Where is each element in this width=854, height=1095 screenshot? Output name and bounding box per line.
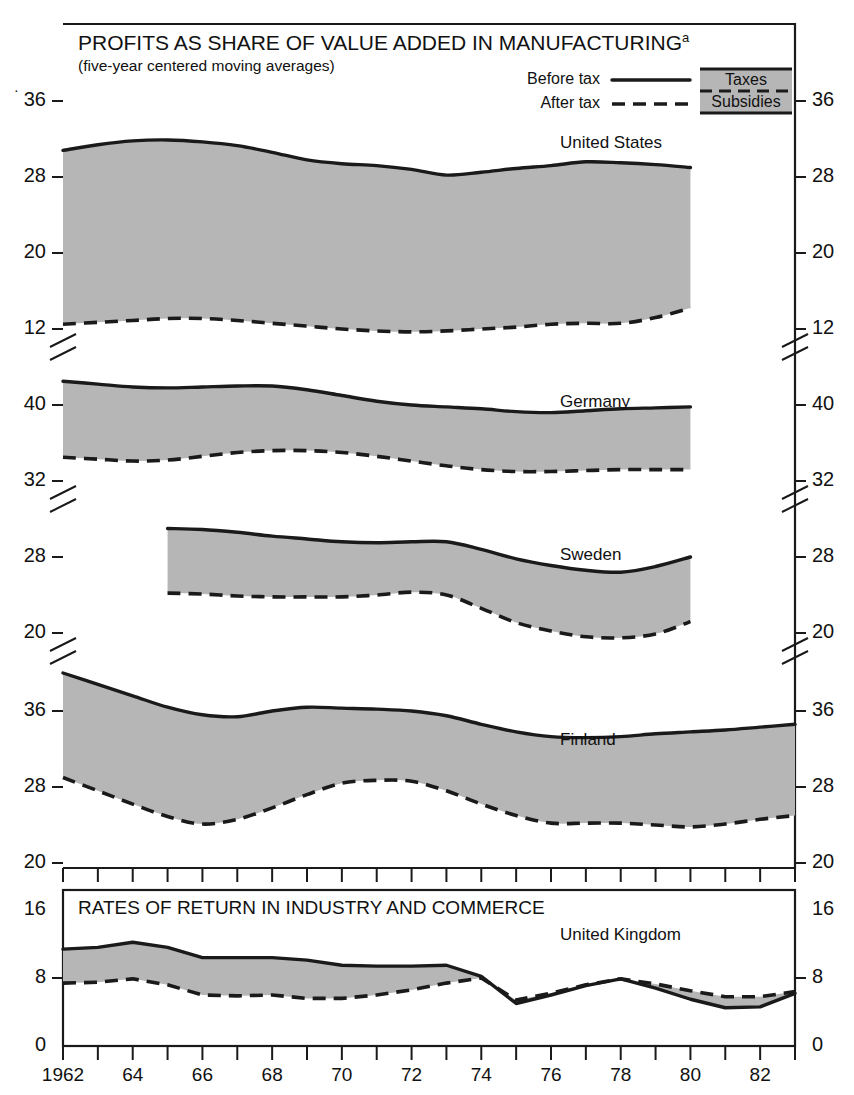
legend-before-tax-label: Before tax — [527, 70, 600, 88]
axis-break-mark — [50, 499, 76, 512]
y-axis-label-left: 32 — [24, 468, 46, 491]
panel-label-united-states: United States — [560, 133, 662, 153]
uk-panel-title: RATES OF RETURN IN INDUSTRY AND COMMERCE — [78, 897, 545, 919]
y-axis-label-right: 20 — [812, 240, 834, 263]
y-axis-label-left: 20 — [24, 850, 46, 873]
y-axis-label-right: 28 — [812, 774, 834, 797]
y-axis-label-left: 36 — [24, 88, 46, 111]
y-axis-label-left: 8 — [35, 965, 46, 988]
margin-mark: · — [14, 82, 19, 98]
x-axis-label: 82 — [750, 1064, 771, 1086]
panel-label-finland: Finland — [560, 730, 616, 750]
x-axis-label: 70 — [331, 1064, 352, 1086]
y-axis-label-left: 20 — [24, 240, 46, 263]
x-axis-label: 80 — [680, 1064, 701, 1086]
x-axis-label: 74 — [471, 1064, 492, 1086]
y-axis-label-left: 36 — [24, 698, 46, 721]
x-axis-label: 68 — [262, 1064, 283, 1086]
y-axis-label-right: 20 — [812, 850, 834, 873]
axis-break-mark — [50, 638, 76, 651]
chart-figure: PROFITS AS SHARE OF VALUE ADDED IN MANUF… — [0, 0, 854, 1095]
y-axis-label-left: 0 — [35, 1033, 46, 1056]
y-axis-label-left: 16 — [24, 897, 46, 920]
y-axis-label-right: 36 — [812, 88, 834, 111]
y-axis-label-left: 28 — [24, 544, 46, 567]
y-axis-label-right: 28 — [812, 164, 834, 187]
axis-break-mark — [50, 651, 76, 664]
axis-break-mark — [50, 486, 76, 499]
axis-break-mark — [50, 334, 76, 347]
y-axis-label-left: 40 — [24, 392, 46, 415]
y-axis-label-right: 12 — [812, 316, 834, 339]
x-axis-label: 66 — [192, 1064, 213, 1086]
title-footnote-marker: a — [682, 30, 689, 45]
chart-title: PROFITS AS SHARE OF VALUE ADDED IN MANUF… — [78, 30, 689, 55]
y-axis-label-right: 16 — [812, 897, 834, 920]
x-axis-label: 64 — [122, 1064, 143, 1086]
legend-subsidies-label: Subsidies — [711, 93, 780, 111]
y-axis-label-right: 28 — [812, 544, 834, 567]
y-axis-label-right: 0 — [812, 1033, 823, 1056]
x-axis-label: 76 — [540, 1064, 561, 1086]
y-axis-label-left: 28 — [24, 774, 46, 797]
y-axis-label-left: 12 — [24, 316, 46, 339]
chart-canvas — [0, 0, 854, 1095]
y-axis-label-right: 20 — [812, 620, 834, 643]
panel-label-germany: Germany — [560, 392, 630, 412]
area-band-united-states — [63, 140, 690, 332]
panel-label-sweden: Sweden — [560, 545, 621, 565]
y-axis-label-right: 8 — [812, 965, 823, 988]
legend-taxes-label: Taxes — [725, 71, 767, 89]
x-axis-label: 78 — [610, 1064, 631, 1086]
x-axis-label: 1962 — [42, 1064, 84, 1086]
legend-after-tax-label: After tax — [540, 94, 600, 112]
y-axis-label-right: 36 — [812, 698, 834, 721]
area-band-finland — [63, 673, 795, 827]
y-axis-label-left: 28 — [24, 164, 46, 187]
x-axis-label: 72 — [401, 1064, 422, 1086]
axis-break-mark — [50, 347, 76, 360]
y-axis-label-right: 32 — [812, 468, 834, 491]
chart-subtitle: (five-year centered moving averages) — [78, 57, 335, 75]
y-axis-label-right: 40 — [812, 392, 834, 415]
panel-label-united-kingdom: United Kingdom — [560, 925, 681, 945]
y-axis-label-left: 20 — [24, 620, 46, 643]
